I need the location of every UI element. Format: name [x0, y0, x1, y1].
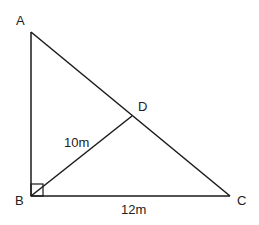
label-point-c: C	[237, 193, 246, 208]
label-point-d: D	[138, 99, 147, 114]
label-bc-length: 12m	[121, 202, 146, 217]
label-point-a: A	[16, 13, 25, 28]
triangle-diagram: A B C D 10m 12m	[0, 0, 259, 225]
label-bd-length: 10m	[64, 135, 89, 150]
label-point-b: B	[15, 193, 24, 208]
segment-bd	[31, 116, 132, 196]
